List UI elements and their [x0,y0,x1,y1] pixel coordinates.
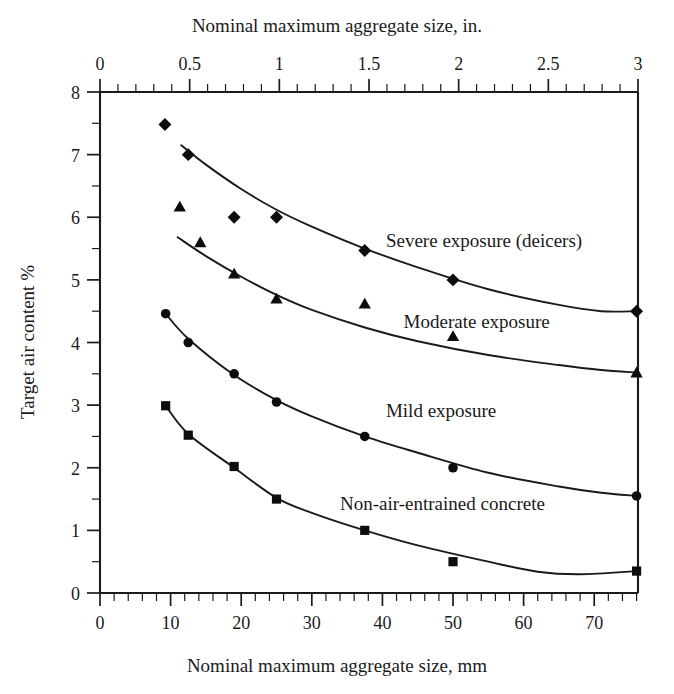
top-axis-title: Nominal maximum aggregate size, in. [192,15,482,36]
series-label-0: Severe exposure (deicers) [386,230,582,252]
trend-line [178,237,637,372]
series-label-1: Moderate exposure [404,311,550,332]
bottom-tick-label: 20 [232,613,250,633]
trend-line [181,145,636,311]
data-point-circle [360,432,370,442]
series-markers-1 [174,201,643,378]
air-content-vs-aggregate-size-chart: Nominal maximum aggregate size, in. Nomi… [0,0,674,694]
data-point-diamond [447,273,460,286]
top-axis-ticks [100,79,638,92]
y-tick-label: 7 [71,146,80,166]
bottom-tick-label: 60 [515,613,533,633]
data-point-triangle [194,236,206,247]
series-curve-1 [178,237,637,372]
y-tick-label: 8 [71,83,80,103]
bottom-tick-label: 40 [373,613,391,633]
data-point-square [230,462,239,471]
data-point-diamond [182,148,195,161]
data-point-square [360,526,369,535]
top-tick-label: 3 [634,54,643,74]
data-point-diamond [228,211,241,224]
series-curve-0 [181,145,636,311]
bottom-tick-label: 50 [444,613,462,633]
top-tick-label: 0.5 [178,54,201,74]
y-tick-label: 4 [71,334,80,354]
data-point-square [161,401,170,410]
bottom-tick-label: 70 [585,613,603,633]
plot-frame [100,92,638,593]
top-axis-tick-labels: 00.511.522.53 [96,54,643,74]
bottom-axis-ticks [100,593,637,606]
data-point-triangle [270,293,282,304]
data-point-circle [161,309,171,319]
y-axis-tick-labels: 012345678 [71,83,80,604]
series-labels: Severe exposure (deicers)Moderate exposu… [340,230,582,514]
data-point-square [632,566,641,575]
series-markers-0 [158,118,643,318]
y-tick-label: 3 [71,396,80,416]
top-tick-label: 1 [275,54,284,74]
bottom-tick-label: 10 [162,613,180,633]
trend-line [166,406,637,574]
top-tick-label: 2 [454,54,463,74]
data-point-circle [448,463,458,473]
data-point-diamond [630,305,643,318]
data-point-diamond [158,118,171,131]
bottom-tick-label: 0 [96,613,105,633]
data-point-circle [272,397,282,407]
series-curve-3 [166,406,637,574]
data-point-square [184,431,193,440]
data-point-square [272,494,281,503]
data-point-triangle [174,201,186,212]
data-point-square [448,557,457,566]
top-tick-label: 0 [96,54,105,74]
series-label-2: Mild exposure [386,400,496,421]
y-tick-label: 1 [71,521,80,541]
y-tick-label: 0 [71,584,80,604]
data-point-circle [632,491,642,501]
bottom-axis-title: Nominal maximum aggregate size, mm [187,655,487,676]
y-tick-label: 6 [71,208,80,228]
data-point-circle [229,369,239,379]
series-label-3: Non-air-entrained concrete [340,493,545,514]
data-point-triangle [359,298,371,309]
y-axis-ticks [87,92,100,593]
bottom-tick-label: 30 [303,613,321,633]
y-axis-title: Target air content % [17,265,38,419]
data-point-circle [183,338,193,348]
top-tick-label: 2.5 [537,54,560,74]
chart-figure: Nominal maximum aggregate size, in. Nomi… [0,0,674,694]
bottom-axis-tick-labels: 010203040506070 [96,613,604,633]
y-tick-label: 2 [71,459,80,479]
y-tick-label: 5 [71,271,80,291]
top-tick-label: 1.5 [358,54,381,74]
